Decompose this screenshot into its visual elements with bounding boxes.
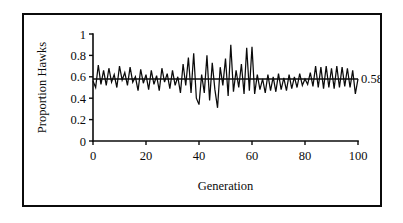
x-tick-label: 80 <box>299 149 312 163</box>
proportion-hawks-series <box>93 45 358 108</box>
y-tick-label: 0 <box>80 135 86 149</box>
x-axis-title: Generation <box>198 179 254 193</box>
equilibrium-value-label: 0.58 <box>361 72 380 86</box>
figure-border: 00.20.40.60.81 020406080100 Proportion H… <box>22 13 382 207</box>
x-tick-label: 20 <box>140 149 153 163</box>
y-axis-title: Proportion Hawks <box>35 42 49 133</box>
y-tick-label: 0.2 <box>70 113 86 127</box>
proportion-hawks-chart: 00.20.40.60.81 020406080100 Proportion H… <box>24 15 380 205</box>
y-tick-label: 1 <box>80 28 86 42</box>
x-tick-label: 60 <box>246 149 259 163</box>
y-tick-label: 0.6 <box>70 70 86 84</box>
x-tick-label: 40 <box>193 149 206 163</box>
x-tick-label: 0 <box>90 149 96 163</box>
x-axis-tick-labels: 020406080100 <box>90 149 368 163</box>
x-tick-label: 100 <box>349 149 368 163</box>
y-axis-tick-labels: 00.20.40.60.81 <box>70 28 86 149</box>
y-tick-label: 0.4 <box>70 92 86 106</box>
y-tick-label: 0.8 <box>70 49 86 63</box>
